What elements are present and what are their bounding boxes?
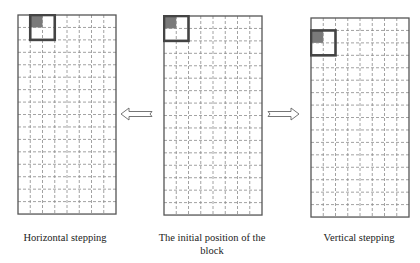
initial-position-grid — [163, 15, 263, 216]
shaded-cell — [311, 30, 323, 42]
vertical-stepping-grid — [310, 17, 410, 218]
horizontal-stepping-grid — [17, 14, 117, 215]
caption-vertical-stepping: Vertical stepping — [294, 231, 420, 244]
caption-initial-position: The initial position of the block — [148, 231, 276, 257]
left-arrow-icon — [120, 107, 154, 121]
shaded-cell — [30, 15, 42, 27]
shaded-cell — [164, 16, 176, 28]
right-arrow-icon — [266, 107, 300, 121]
caption-horizontal-stepping: Horizontal stepping — [0, 231, 130, 244]
